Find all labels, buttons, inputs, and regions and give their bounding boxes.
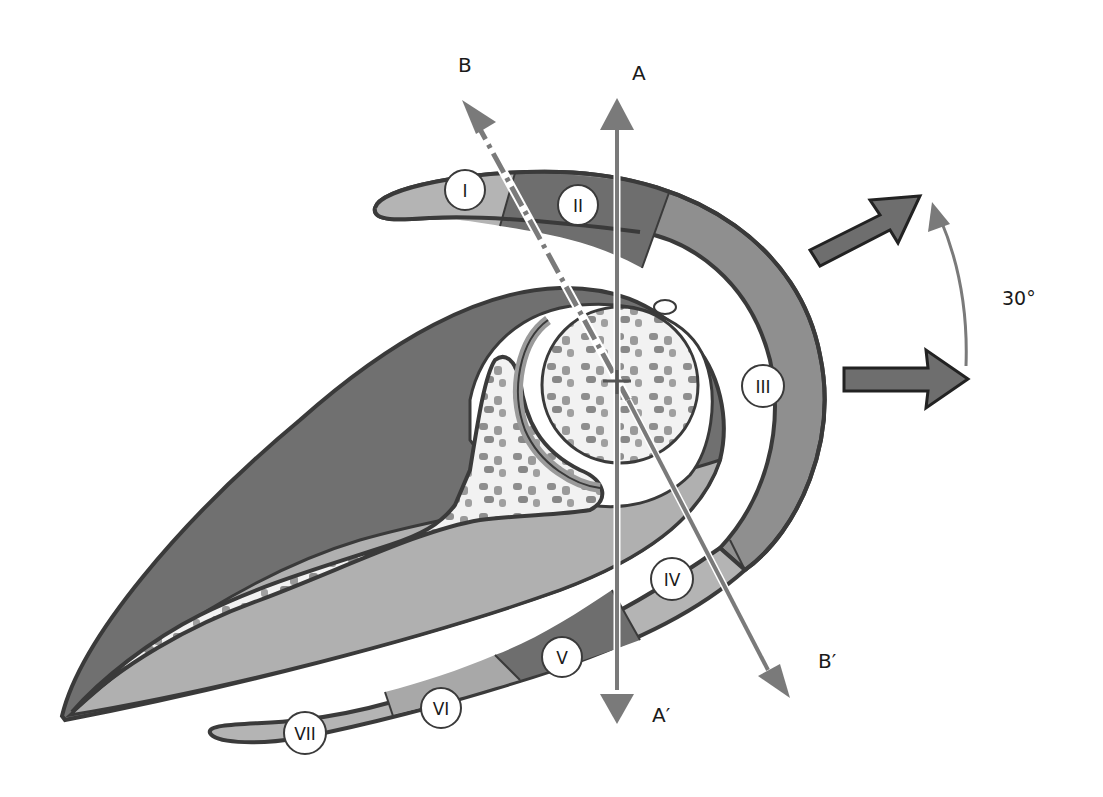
rotation-indicator: 30° bbox=[810, 196, 1036, 408]
zone-label-III: III bbox=[742, 365, 784, 407]
biceps-tendon bbox=[654, 300, 676, 314]
svg-text:I: I bbox=[462, 181, 467, 201]
zone-label-II: II bbox=[558, 185, 598, 225]
rotation-angle-label: 30° bbox=[1002, 287, 1036, 309]
svg-text:II: II bbox=[573, 196, 583, 216]
rotated-arrow-icon bbox=[810, 196, 920, 266]
zone-label-VI: VI bbox=[421, 688, 461, 728]
axis-A-start-label: A bbox=[632, 61, 646, 85]
axis-B-start-arrowhead bbox=[462, 100, 496, 134]
svg-text:V: V bbox=[556, 648, 568, 668]
axis-A-end-label: A′ bbox=[652, 703, 671, 727]
axis-A-start-arrowhead bbox=[600, 98, 634, 130]
svg-text:III: III bbox=[755, 377, 770, 397]
zone-label-VII: VII bbox=[284, 712, 326, 754]
zone-label-IV: IV bbox=[651, 558, 693, 600]
rotation-arc-arrowhead bbox=[928, 202, 950, 232]
zone-label-V: V bbox=[542, 637, 582, 677]
axis-A-end-arrowhead bbox=[600, 694, 634, 724]
rotation-arc bbox=[940, 218, 966, 366]
svg-text:VI: VI bbox=[433, 699, 450, 719]
axis-B-start-label: B bbox=[458, 53, 472, 77]
svg-text:IV: IV bbox=[664, 570, 681, 590]
zone-label-I: I bbox=[445, 170, 485, 210]
svg-text:VII: VII bbox=[294, 724, 316, 744]
axis-B-end-arrowhead bbox=[758, 664, 790, 698]
shoulder-cross-section-diagram: I II III IV V VI VII B A A′ B′ bbox=[0, 0, 1103, 797]
axis-B-end-label: B′ bbox=[818, 649, 837, 673]
horizontal-arrow-icon bbox=[844, 350, 968, 408]
